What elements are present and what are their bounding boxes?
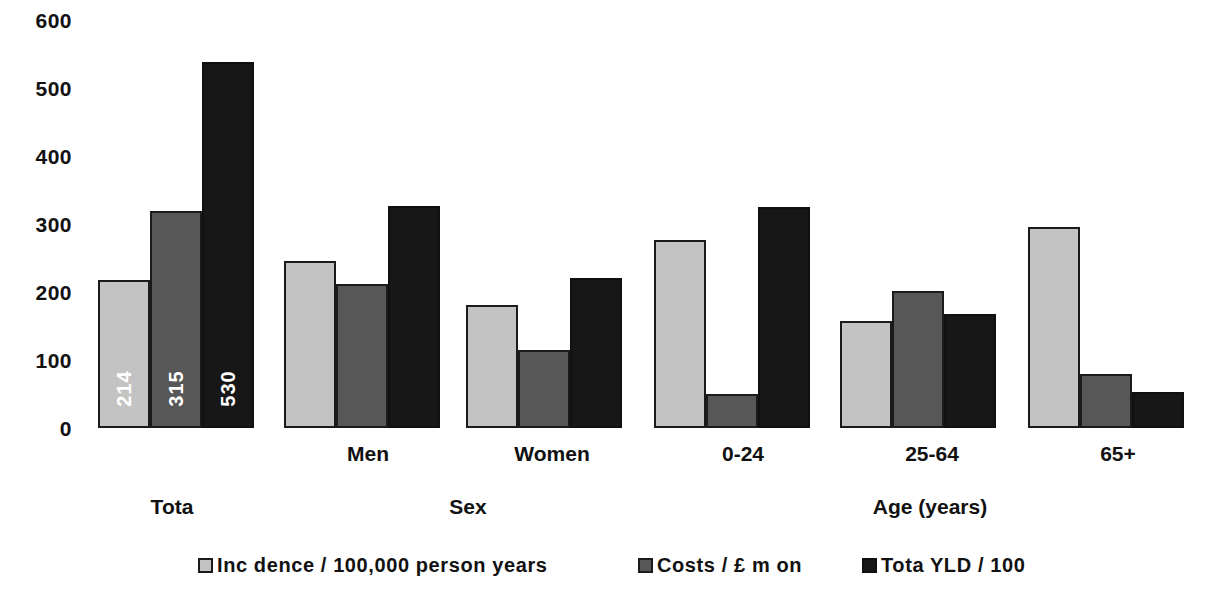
legend-swatch-icon-costs [638, 558, 653, 573]
bar-group [466, 14, 622, 428]
bar-group [1028, 14, 1184, 428]
y-tick-label-200: 200 [0, 282, 72, 303]
y-tick-label-0: 0 [0, 418, 72, 439]
bar [892, 291, 944, 428]
category-label-women: Women [514, 442, 589, 466]
plot-area: 214315530 [88, 14, 1208, 428]
bar [466, 305, 518, 428]
bar [706, 394, 758, 429]
bar: 530 [202, 62, 254, 428]
category-label-25-64: 25-64 [905, 442, 959, 466]
bar-group [654, 14, 810, 428]
y-tick-label-400: 400 [0, 146, 72, 167]
group-label-total: Tota [151, 495, 194, 519]
chart-legend: Inc dence / 100,000 person years Costs /… [0, 552, 1214, 586]
category-label-men: Men [347, 442, 389, 466]
bar [1028, 227, 1080, 428]
category-label-65plus: 65+ [1100, 442, 1136, 466]
legend-label-incidence: Inc dence / 100,000 person years [217, 554, 548, 577]
bar: 315 [150, 211, 202, 428]
bar [758, 207, 810, 428]
bar [1132, 392, 1184, 428]
bar [840, 321, 892, 428]
legend-swatch-icon-yld [862, 558, 877, 573]
y-tick-label-600: 600 [0, 10, 72, 31]
group-label-sex: Sex [449, 495, 486, 519]
category-label-0-24: 0-24 [722, 442, 764, 466]
legend-item-incidence: Inc dence / 100,000 person years [198, 554, 548, 577]
bar-group: 214315530 [98, 14, 254, 428]
bar [944, 314, 996, 428]
y-tick-label-300: 300 [0, 214, 72, 235]
bar-value-label: 315 [165, 370, 188, 406]
bar-value-label: 530 [217, 370, 240, 406]
legend-item-costs: Costs / £ m on [638, 554, 802, 577]
bar [654, 240, 706, 428]
bar-value-label: 214 [113, 370, 136, 406]
legend-item-yld: Tota YLD / 100 [862, 554, 1025, 577]
bar-group [840, 14, 996, 428]
bar [570, 278, 622, 428]
legend-swatch-icon-incidence [198, 558, 213, 573]
y-axis: 600 500 400 300 200 100 0 [0, 0, 80, 460]
y-tick-label-100: 100 [0, 350, 72, 371]
bar-group [284, 14, 440, 428]
bar: 214 [98, 280, 150, 428]
y-tick-label-500: 500 [0, 78, 72, 99]
bar [1080, 374, 1132, 428]
legend-label-yld: Tota YLD / 100 [881, 554, 1025, 577]
bar [336, 284, 388, 428]
bar [284, 261, 336, 428]
bar [518, 350, 570, 428]
bar [388, 206, 440, 428]
legend-label-costs: Costs / £ m on [657, 554, 802, 577]
group-label-age: Age (years) [873, 495, 987, 519]
grouped-bar-chart: 600 500 400 300 200 100 0 214315530 Men … [0, 0, 1214, 590]
